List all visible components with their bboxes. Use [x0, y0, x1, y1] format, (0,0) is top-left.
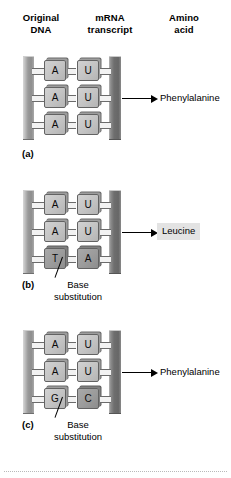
- header-amino-acid-line2: acid: [152, 24, 216, 36]
- dna-mrna-ladder-c: A U A U G C: [23, 330, 121, 412]
- nucleotide-mrna-substituted: A: [77, 248, 99, 269]
- hydrogen-bond: [68, 229, 76, 236]
- nucleotide-dna: A: [44, 361, 66, 382]
- arrow-line: [122, 372, 152, 373]
- hydrogen-bond: [100, 369, 111, 376]
- base-pair-row: A U: [23, 86, 121, 108]
- header-original-dna-line1: Original: [10, 12, 72, 24]
- hydrogen-bond: [68, 369, 76, 376]
- base-pair-row-substituted: G C: [23, 387, 121, 409]
- panel-a: A U A U A U Phenylalanine (a): [0, 52, 231, 170]
- header-original-dna: Original DNA: [10, 12, 72, 35]
- nucleotide-mrna: U: [77, 194, 99, 215]
- arrow-line: [122, 98, 152, 99]
- nucleotide-mrna: U: [77, 87, 99, 108]
- column-headers: Original DNA mRNA transcript Amino acid: [0, 12, 231, 46]
- hydrogen-bond: [68, 342, 76, 349]
- hydrogen-bond: [100, 122, 111, 129]
- hydrogen-bond: [68, 68, 76, 75]
- arrow-line: [122, 232, 152, 233]
- dna-mrna-ladder-b: A U A U T A: [23, 190, 121, 272]
- header-mrna-transcript-line2: transcript: [74, 24, 146, 36]
- panel-letter-b: (b): [22, 279, 34, 290]
- hydrogen-bond: [68, 256, 76, 263]
- nucleotide-mrna-substituted: C: [77, 388, 99, 409]
- nucleotide-mrna: U: [77, 114, 99, 135]
- panel-c: A U A U G C Phenylalanine Base substitut…: [0, 326, 231, 466]
- base-pair-row: A U: [23, 59, 121, 81]
- hydrogen-bond: [100, 68, 111, 75]
- amino-acid-label-a: Phenylalanine: [160, 92, 220, 104]
- base-pair-row: A U: [23, 193, 121, 215]
- nucleotide-dna-substituted: T: [44, 248, 66, 269]
- panel-b: A U A U T A Leucine Base substitution (b…: [0, 186, 231, 314]
- amino-acid-label-c: Phenylalanine: [160, 366, 220, 378]
- nucleotide-dna: A: [44, 60, 66, 81]
- hydrogen-bond: [68, 396, 76, 403]
- nucleotide-mrna: U: [77, 334, 99, 355]
- header-mrna-transcript: mRNA transcript: [74, 12, 146, 35]
- base-substitution-label-c-line2: substitution: [40, 431, 116, 443]
- base-pair-row: A U: [23, 333, 121, 355]
- nucleotide-dna: A: [44, 334, 66, 355]
- nucleotide-dna: A: [44, 114, 66, 135]
- hydrogen-bond: [68, 202, 76, 209]
- translation-arrow-b: [122, 227, 162, 239]
- hydrogen-bond: [100, 396, 111, 403]
- base-substitution-label-b-line1: Base: [40, 279, 116, 291]
- panel-letter-c: (c): [22, 419, 34, 430]
- base-substitution-label-c: Base substitution: [40, 419, 116, 442]
- base-substitution-label-c-line1: Base: [40, 419, 116, 431]
- dna-mrna-ladder-a: A U A U A U: [23, 56, 121, 138]
- translation-arrow-c: [122, 367, 162, 379]
- nucleotide-mrna: U: [77, 221, 99, 242]
- base-substitution-label-b-line2: substitution: [40, 291, 116, 303]
- hydrogen-bond: [100, 229, 111, 236]
- amino-acid-label-b: Leucine: [157, 223, 200, 240]
- nucleotide-dna: A: [44, 221, 66, 242]
- header-original-dna-line2: DNA: [10, 24, 72, 36]
- arrow-head-icon: [151, 369, 158, 377]
- hydrogen-bond: [100, 342, 111, 349]
- header-amino-acid-line1: Amino: [152, 12, 216, 24]
- hydrogen-bond: [68, 122, 76, 129]
- nucleotide-dna-substituted: G: [44, 388, 66, 409]
- hydrogen-bond: [100, 256, 111, 263]
- base-pair-row: A U: [23, 220, 121, 242]
- header-mrna-transcript-line1: mRNA: [74, 12, 146, 24]
- hydrogen-bond: [68, 95, 76, 102]
- nucleotide-dna: A: [44, 87, 66, 108]
- panel-letter-a: (a): [22, 148, 34, 159]
- nucleotide-mrna: U: [77, 361, 99, 382]
- base-pair-row: A U: [23, 360, 121, 382]
- base-substitution-label-b: Base substitution: [40, 279, 116, 302]
- bottom-divider: [4, 471, 227, 472]
- header-amino-acid: Amino acid: [152, 12, 216, 35]
- nucleotide-dna: A: [44, 194, 66, 215]
- nucleotide-mrna: U: [77, 60, 99, 81]
- base-pair-row-substituted: T A: [23, 247, 121, 269]
- hydrogen-bond: [100, 95, 111, 102]
- translation-arrow-a: [122, 93, 162, 105]
- base-pair-row: A U: [23, 113, 121, 135]
- hydrogen-bond: [100, 202, 111, 209]
- arrow-head-icon: [151, 95, 158, 103]
